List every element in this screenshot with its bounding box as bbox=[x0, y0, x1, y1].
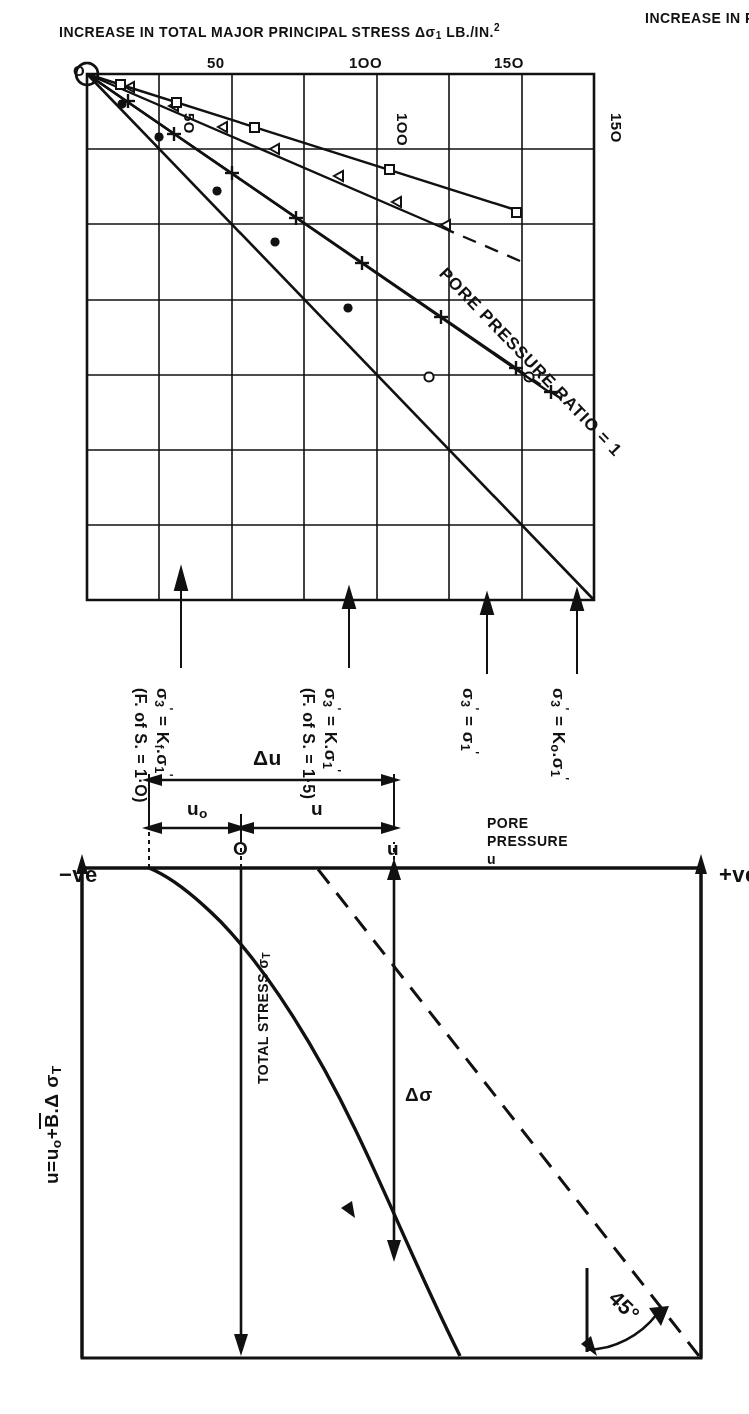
scanned-figure-sheet: +ve −ve PORE PRESSURE u TOTAL STRESS σT … bbox=[0, 0, 749, 1414]
bracket-delta-u-label: Δu bbox=[253, 746, 282, 770]
annotation-fos-10: (F. of S. = 1·O) bbox=[131, 688, 149, 803]
pore-pressure-schematic: +ve −ve PORE PRESSURE u TOTAL STRESS σT … bbox=[0, 714, 749, 1414]
y-tick-label-50: 5O bbox=[181, 113, 198, 134]
x-axis-title-units-sup: 2 bbox=[494, 22, 500, 33]
equation-b-bar: +B bbox=[41, 1114, 63, 1140]
y-axis-title: INCREASE IN PORE PRESSURE Δu LB./IN.2 bbox=[645, 8, 749, 26]
positive-axis-arrowhead bbox=[695, 854, 707, 874]
bracket-u0-label-sub: o bbox=[199, 806, 208, 821]
equation-mid2: .Δ σ bbox=[41, 1074, 62, 1113]
x-axis-title-symbol: Δσ bbox=[415, 24, 436, 40]
x-axis-title-symbol-sub: 1 bbox=[436, 30, 442, 41]
series-sigma3-eq-k0-sigma1 bbox=[87, 74, 558, 399]
origin-label: O bbox=[233, 838, 248, 860]
pore-pressure-axis-label: PORE PRESSURE u bbox=[487, 814, 568, 868]
x-tick-label-150: 15O bbox=[494, 54, 524, 71]
x-axis-title-text: INCREASE IN TOTAL MAJOR PRINCIPAL STRESS bbox=[59, 24, 411, 40]
figure-b-drawing bbox=[0, 0, 749, 714]
y-axis-title-text: INCREASE IN PORE PRESSURE bbox=[645, 10, 749, 26]
annotation-sigma3-eq-sigma1: σ3' = σ1' bbox=[458, 688, 481, 755]
y-tick-label-100: 1OO bbox=[394, 113, 411, 146]
annotation-sigma3-eq-kf-sigma1: σ3' = Kf.σ1' bbox=[152, 688, 175, 777]
total-stress-symbol: σ bbox=[255, 959, 271, 969]
series-sigma3-eq-k-sigma1-fos15 bbox=[87, 74, 527, 264]
pore-pressure-increase-graph: O 50 1OO 15O 5O 1OO 15O INCREASE IN TOTA… bbox=[0, 0, 749, 714]
total-stress-symbol-sub: T bbox=[261, 952, 272, 959]
bracket-u-label: u bbox=[311, 798, 323, 820]
x-tick-label-100: 1OO bbox=[349, 54, 382, 71]
x-axis-title: INCREASE IN TOTAL MAJOR PRINCIPAL STRESS… bbox=[59, 22, 500, 41]
x-axis-title-units: LB./IN. bbox=[446, 24, 494, 40]
delta-sigma-label: Δσ bbox=[405, 1084, 433, 1106]
equation-lhs-sub: o bbox=[49, 1139, 64, 1148]
equation-lhs: u=u bbox=[41, 1148, 62, 1184]
axis-positive-label: +ve bbox=[719, 862, 749, 888]
u-tick-label: u bbox=[387, 838, 399, 860]
pore-pressure-equation: u=uo+B.Δ σT bbox=[41, 1065, 64, 1184]
pore-pressure-axis-label-line3: u bbox=[487, 850, 568, 868]
x-tick-label-50: 50 bbox=[207, 54, 225, 71]
pore-pressure-axis-label-line2: PRESSURE bbox=[487, 832, 568, 850]
annotation-fos-15: (F. of S. = 1·5) bbox=[299, 688, 317, 800]
equation-rhs-sub: T bbox=[49, 1065, 64, 1074]
pore-pressure-axis-label-line1: PORE bbox=[487, 814, 568, 832]
annotation-sigma3-eq-k0-sigma1: σ3' = Ko.σ1' bbox=[548, 688, 571, 781]
y-tick-label-150: 15O bbox=[608, 113, 625, 143]
bracket-u0-label: uo bbox=[187, 798, 208, 821]
axis-negative-label: −ve bbox=[59, 862, 98, 888]
annotation-sigma3-eq-k-sigma1: σ3' = K.σ1' bbox=[320, 688, 343, 773]
total-stress-label: TOTAL STRESS σT bbox=[255, 952, 272, 1084]
curve-direction-arrowhead bbox=[341, 1201, 355, 1218]
x-tick-label-0: O bbox=[73, 62, 85, 79]
